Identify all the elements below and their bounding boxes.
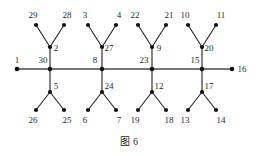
node-label-8: 8 (93, 55, 98, 65)
node-label-24: 24 (105, 81, 115, 91)
edge-24-7 (102, 92, 116, 110)
node-label-19: 19 (131, 115, 141, 125)
node-label-13: 13 (181, 115, 191, 125)
graph-node-26[interactable] (34, 108, 38, 112)
edge-17-14 (202, 92, 216, 110)
node-label-14: 14 (217, 115, 227, 125)
node-label-15: 15 (191, 55, 201, 65)
graph-node-4[interactable] (114, 23, 118, 27)
node-label-3: 3 (83, 10, 88, 20)
graph-node-30[interactable] (48, 67, 53, 72)
graph-node-13[interactable] (186, 108, 190, 112)
edge-5-25 (50, 92, 64, 110)
graph-node-28[interactable] (62, 23, 66, 27)
node-label-16: 16 (238, 64, 248, 74)
graph-node-17[interactable] (200, 90, 204, 94)
node-label-27: 27 (105, 43, 115, 53)
graph-node-11[interactable] (214, 23, 218, 27)
figure-container: 1308231516229285262527342467922211219182… (0, 0, 258, 156)
node-label-29: 29 (29, 10, 39, 20)
graph-node-15[interactable] (200, 67, 205, 72)
graph-node-1[interactable] (15, 67, 20, 72)
graph-node-14[interactable] (214, 108, 218, 112)
graph-node-2[interactable] (48, 45, 52, 49)
node-label-7: 7 (117, 115, 122, 125)
node-layer (15, 23, 235, 112)
node-label-21: 21 (165, 10, 174, 20)
graph-node-19[interactable] (136, 108, 140, 112)
node-label-1: 1 (15, 55, 20, 65)
graph-node-7[interactable] (114, 108, 118, 112)
graph-node-21[interactable] (164, 23, 168, 27)
graph-node-25[interactable] (62, 108, 66, 112)
graph-node-10[interactable] (186, 23, 190, 27)
node-label-18: 18 (165, 115, 175, 125)
edge-12-18 (152, 92, 166, 110)
figure-caption: 图 6 (0, 133, 258, 148)
node-label-23: 23 (140, 55, 150, 65)
node-label-9: 9 (157, 43, 162, 53)
node-label-28: 28 (63, 10, 73, 20)
edge-24-6 (88, 92, 102, 110)
graph-node-6[interactable] (86, 108, 90, 112)
node-label-4: 4 (117, 10, 122, 20)
node-label-17: 17 (205, 81, 215, 91)
edge-2-29 (36, 25, 50, 47)
node-label-30: 30 (39, 55, 49, 65)
graph-node-12[interactable] (150, 90, 154, 94)
edge-9-22 (138, 25, 152, 47)
node-label-26: 26 (29, 115, 39, 125)
node-label-5: 5 (54, 81, 59, 91)
graph-node-20[interactable] (200, 45, 204, 49)
graph-node-9[interactable] (150, 45, 154, 49)
graph-node-24[interactable] (100, 90, 104, 94)
edge-27-3 (88, 25, 102, 47)
branch-edge-layer (36, 25, 216, 110)
graph-node-29[interactable] (34, 23, 38, 27)
graph-node-22[interactable] (136, 23, 140, 27)
graph-node-8[interactable] (100, 67, 105, 72)
graph-node-3[interactable] (86, 23, 90, 27)
node-label-2: 2 (54, 43, 59, 53)
graph-node-16[interactable] (230, 67, 235, 72)
node-label-11: 11 (217, 10, 226, 20)
node-label-6: 6 (83, 115, 88, 125)
graph-node-5[interactable] (48, 90, 52, 94)
graph-node-18[interactable] (164, 108, 168, 112)
edge-12-19 (138, 92, 152, 110)
edge-20-10 (188, 25, 202, 47)
node-label-10: 10 (181, 10, 191, 20)
node-label-25: 25 (63, 115, 73, 125)
node-label-20: 20 (205, 43, 215, 53)
node-label-22: 22 (131, 10, 140, 20)
edge-17-13 (188, 92, 202, 110)
graph-node-27[interactable] (100, 45, 104, 49)
graph-node-23[interactable] (150, 67, 155, 72)
node-label-12: 12 (155, 81, 164, 91)
edge-5-26 (36, 92, 50, 110)
